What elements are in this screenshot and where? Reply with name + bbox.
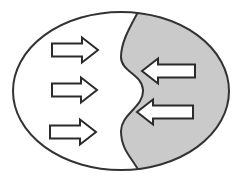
divided-ellipse-diagram	[0, 0, 239, 185]
diagram-canvas	[0, 0, 239, 185]
